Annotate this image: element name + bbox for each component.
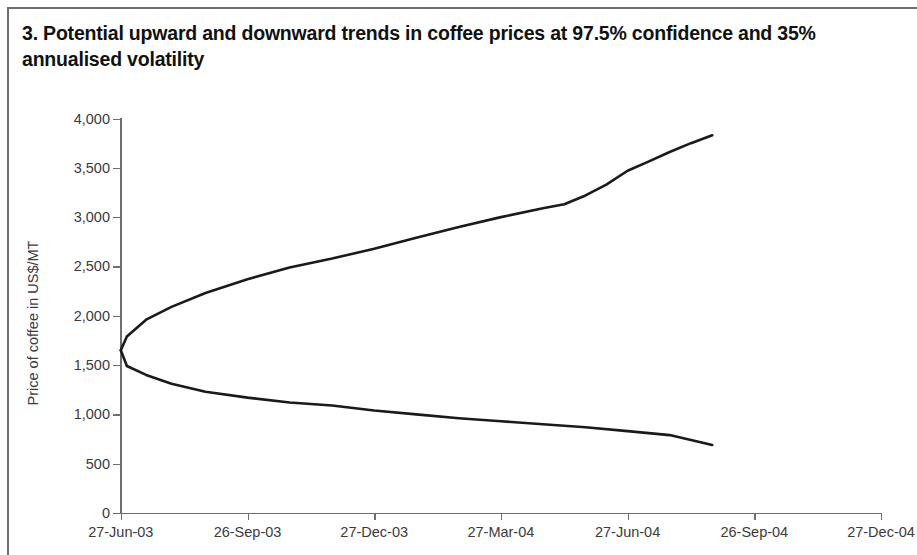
chart-plot-area: Price of coffee in US$/MT 05001,0001,500… <box>0 0 917 555</box>
lower-bound-curve <box>121 350 712 445</box>
figure-container: 3. Potential upward and downward trends … <box>0 0 917 555</box>
upper-bound-curve <box>121 135 712 350</box>
trend-curves <box>0 0 917 555</box>
